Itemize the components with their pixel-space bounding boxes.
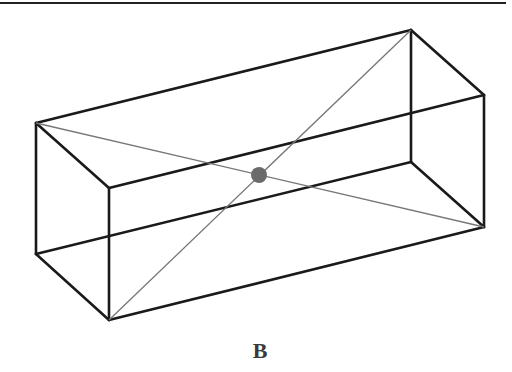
edge-top-left-to-back: [36, 30, 411, 123]
edge-top-far-to-front: [109, 95, 484, 188]
edge-bottom-back-to-far: [411, 162, 484, 227]
edge-bottom-left-to-back: [36, 162, 411, 254]
edge-bottom-far-to-front: [109, 227, 484, 320]
figure-caption-label: B: [0, 338, 512, 364]
edge-top-front-to-left: [36, 123, 109, 188]
cuboid-diagram: [0, 0, 512, 372]
center-point-dot: [251, 167, 267, 183]
edge-bottom-front-to-left: [36, 254, 109, 320]
edge-top-back-to-far: [411, 30, 484, 95]
